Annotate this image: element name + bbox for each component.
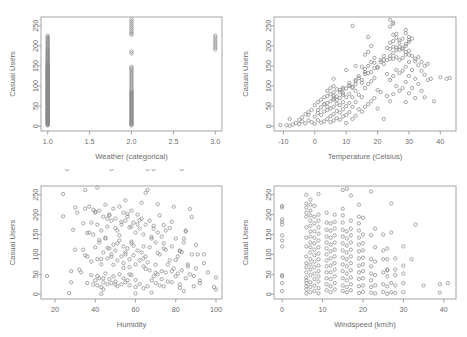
y-tick-label: 0	[31, 124, 40, 128]
y-axis-title: Casual Users	[8, 51, 17, 97]
y-tick-label: 50	[264, 270, 273, 278]
x-tick-label: 60	[132, 305, 140, 314]
y-tick-label: 150	[31, 60, 40, 72]
x-tick-label: 0	[313, 137, 317, 146]
y-tick-label: 100	[264, 80, 273, 92]
x-tick-label: 2.0	[127, 137, 137, 146]
x-tick-label: 2.5	[168, 137, 178, 146]
x-tick-label: 20	[359, 305, 367, 314]
x-tick-label: 30	[399, 305, 407, 314]
y-tick-label: 50	[31, 270, 40, 278]
y-axis-title: Casual Users	[241, 220, 250, 266]
y-tick-label: 0	[31, 292, 40, 296]
y-tick-label: 150	[31, 229, 40, 241]
data-points	[46, 18, 217, 127]
data-points	[280, 187, 449, 295]
x-tick-label: 80	[172, 305, 180, 314]
x-tick-label: 10	[319, 305, 327, 314]
x-tick-label: 30	[405, 137, 413, 146]
y-tick-label: 50	[31, 102, 40, 110]
y-axis-title: Casual Users	[241, 51, 250, 97]
x-tick-label: 10	[342, 137, 350, 146]
x-tick-label: 40	[440, 305, 448, 314]
panel-windspeed: 010203040050100150200250Windspeed (km/h)…	[233, 169, 467, 337]
y-tick-label: 250	[31, 20, 40, 32]
y-tick-label: 100	[31, 248, 40, 260]
y-tick-label: 0	[264, 292, 273, 296]
x-tick-label: 40	[436, 137, 444, 146]
data-points	[279, 18, 452, 127]
x-tick-label: -10	[278, 137, 288, 146]
x-axis-title: Windspeed (km/h)	[334, 320, 396, 329]
x-tick-label: 40	[91, 305, 99, 314]
y-tick-label: 250	[264, 189, 273, 201]
y-tick-label: 0	[264, 124, 273, 128]
data-points	[45, 169, 217, 295]
y-tick-label: 200	[264, 209, 273, 221]
x-axis-title: Humidity	[117, 320, 147, 329]
y-tick-label: 150	[264, 60, 273, 72]
panel-weather: 1.01.52.02.53.0050100150200250Weather (c…	[0, 0, 233, 169]
panel-temperature-svg: -10010203040050100150200250Temperature (…	[233, 0, 467, 169]
panel-humidity: 20406080100050100150200250HumidityCasual…	[0, 169, 233, 337]
y-tick-label: 50	[264, 102, 273, 110]
x-tick-label: 100	[210, 305, 222, 314]
scatterplot-matrix: 1.01.52.02.53.0050100150200250Weather (c…	[0, 0, 467, 337]
x-tick-label: 1.0	[43, 137, 53, 146]
x-tick-label: 1.5	[85, 137, 95, 146]
x-tick-label: 3.0	[210, 137, 220, 146]
y-tick-label: 250	[31, 189, 40, 201]
y-tick-label: 200	[31, 40, 40, 52]
x-axis-title: Temperature (Celsius)	[328, 152, 403, 161]
y-tick-label: 200	[31, 209, 40, 221]
x-tick-label: 0	[280, 305, 284, 314]
panel-temperature: -10010203040050100150200250Temperature (…	[233, 0, 467, 169]
panel-weather-svg: 1.01.52.02.53.0050100150200250Weather (c…	[0, 0, 233, 169]
panel-windspeed-svg: 010203040050100150200250Windspeed (km/h)…	[233, 169, 467, 337]
y-tick-label: 100	[264, 248, 273, 260]
panel-humidity-svg: 20406080100050100150200250HumidityCasual…	[0, 169, 233, 337]
y-tick-label: 100	[31, 80, 40, 92]
y-tick-label: 150	[264, 229, 273, 241]
y-tick-label: 200	[264, 40, 273, 52]
y-axis-title: Casual Users	[8, 220, 17, 266]
x-tick-label: 20	[374, 137, 382, 146]
x-axis-title: Weather (categorical)	[95, 152, 168, 161]
x-tick-label: 20	[51, 305, 59, 314]
y-tick-label: 250	[264, 20, 273, 32]
